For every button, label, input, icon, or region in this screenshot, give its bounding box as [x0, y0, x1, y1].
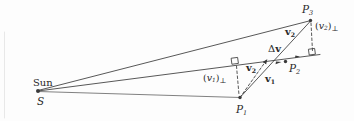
vector-label-v2-lower: v2	[246, 63, 256, 74]
arrow-tick-delta-v	[276, 62, 282, 65]
delta-v-vector-letter: v	[275, 43, 281, 54]
segment-s-to-p2-extended	[38, 55, 320, 92]
point-label-p3: P3	[302, 4, 313, 16]
right-angle-mark-p1	[232, 57, 239, 64]
point-label-p3-sub: 3	[309, 9, 313, 17]
point-label-p1-sub: 1	[243, 109, 247, 117]
vector-label-v2-upper: v2	[285, 27, 295, 38]
orbital-velocity-diagram: Sun S P1 P2 P3 v1 v2 v2 Δv (v1)⊥ (v2)⊥	[0, 0, 354, 121]
v2-perp-mark: ⊥	[332, 24, 339, 33]
point-label-s: S	[37, 96, 44, 107]
vertex-dot-p2	[284, 60, 287, 63]
segment-s-to-p1	[38, 92, 240, 98]
vector-label-v1: v1	[265, 74, 275, 85]
sun-label: Sun	[33, 78, 53, 88]
component-label-v2-perp: (v2)⊥	[315, 21, 339, 33]
vector-label-v1-sub: 1	[271, 78, 275, 85]
component-label-v1-perp: (v1)⊥	[203, 73, 227, 85]
vertex-dot-p3	[309, 19, 312, 22]
point-label-p2: P2	[289, 63, 300, 75]
segment-p1-to-p3	[240, 21, 311, 98]
vector-label-v2-upper-sub: 2	[291, 31, 295, 38]
vertex-dot-p1	[238, 96, 241, 99]
dashed-perp-drop-p3	[311, 23, 313, 51]
point-label-s-text: S	[37, 95, 44, 107]
vector-label-delta-v: Δv	[268, 44, 281, 54]
point-label-p2-sub: 2	[296, 68, 300, 76]
diagram-canvas	[0, 0, 354, 121]
vector-label-v2-lower-sub: 2	[252, 67, 256, 74]
dashed-perp-drop-p1	[237, 66, 240, 95]
v1-perp-mark: ⊥	[220, 76, 227, 85]
point-label-p1: P1	[236, 104, 247, 116]
vertex-dot-s	[36, 89, 40, 93]
